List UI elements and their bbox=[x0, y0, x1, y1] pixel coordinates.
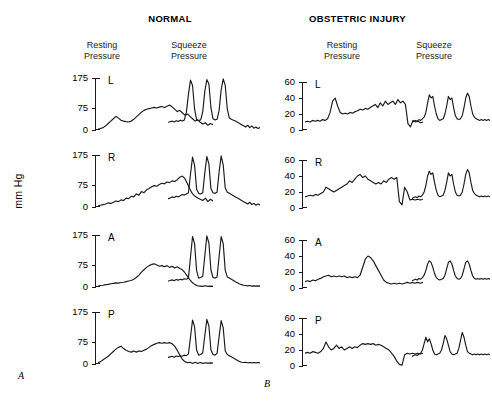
column-header-obstetric-resting: Resting Pressure bbox=[308, 40, 376, 62]
axis-tick-label: 175 bbox=[72, 230, 88, 240]
panel-letter-a: A bbox=[18, 370, 24, 381]
trace-normal-A-squeeze bbox=[168, 235, 260, 287]
axis-tick bbox=[92, 185, 97, 186]
axis-tick-label: 20 bbox=[284, 267, 295, 277]
column-header-normal-resting: Resting Pressure bbox=[68, 40, 136, 62]
axis-tick bbox=[299, 350, 304, 351]
axis-tick-label: 60 bbox=[284, 235, 295, 245]
axis-spine bbox=[302, 240, 303, 288]
axis-tick bbox=[92, 364, 97, 365]
axis-tick-label: 60 bbox=[284, 313, 295, 323]
axis-tick bbox=[299, 240, 304, 241]
axis-tick-label: 60 bbox=[284, 77, 295, 87]
axis-tick bbox=[92, 155, 97, 156]
trace-obstetric-P-squeeze bbox=[412, 318, 490, 366]
axis-tick-label: 40 bbox=[284, 251, 295, 261]
trace-normal-L-squeeze bbox=[168, 78, 260, 130]
axis-tick bbox=[92, 78, 97, 79]
axis-tick bbox=[299, 288, 304, 289]
column-header-obstetric-squeeze: Squeeze Pressure bbox=[400, 40, 468, 62]
axis-spine bbox=[95, 312, 96, 364]
axis-tick bbox=[92, 312, 97, 313]
trace-obstetric-A-squeeze bbox=[412, 240, 490, 288]
axis-tick-label: 0 bbox=[83, 359, 88, 369]
axis-tick-label: 175 bbox=[72, 73, 88, 83]
axis-tick-label: 40 bbox=[284, 93, 295, 103]
axis-tick-label: 0 bbox=[290, 125, 295, 135]
axis-tick-label: 0 bbox=[290, 361, 295, 371]
panel-title-normal: NORMAL bbox=[115, 13, 225, 24]
axis-tick-label: 20 bbox=[284, 109, 295, 119]
axis-tick-label: 20 bbox=[284, 345, 295, 355]
trace-obstetric-R-resting bbox=[305, 160, 423, 208]
axis-tick bbox=[92, 108, 97, 109]
panel-letter-b: B bbox=[264, 378, 270, 389]
axis-tick-label: 175 bbox=[72, 150, 88, 160]
y-axis-label: mm Hg bbox=[12, 161, 24, 221]
trace-obstetric-L-squeeze bbox=[412, 82, 490, 130]
axis-tick bbox=[299, 82, 304, 83]
axis-tick bbox=[92, 342, 97, 343]
axis-tick-label: 0 bbox=[290, 203, 295, 213]
axis-tick bbox=[299, 272, 304, 273]
axis-tick bbox=[92, 130, 97, 131]
axis-tick bbox=[92, 207, 97, 208]
axis-tick-label: 175 bbox=[72, 307, 88, 317]
axis-tick bbox=[299, 318, 304, 319]
axis-tick bbox=[299, 114, 304, 115]
axis-tick-label: 0 bbox=[83, 125, 88, 135]
axis-tick-label: 75 bbox=[77, 337, 88, 347]
axis-tick bbox=[92, 287, 97, 288]
column-header-line1: Resting bbox=[308, 40, 376, 51]
figure-root: NORMAL OBSTETRIC INJURY Resting Pressure… bbox=[0, 0, 492, 405]
axis-tick bbox=[299, 130, 304, 131]
trace-obstetric-L-resting bbox=[305, 82, 423, 130]
axis-tick-label: 75 bbox=[77, 180, 88, 190]
column-header-line1: Squeeze bbox=[400, 40, 468, 51]
axis-tick bbox=[299, 98, 304, 99]
axis-tick bbox=[299, 176, 304, 177]
axis-tick-label: 40 bbox=[284, 171, 295, 181]
axis-spine bbox=[302, 82, 303, 130]
trace-normal-R-squeeze bbox=[168, 155, 260, 207]
axis-tick-label: 75 bbox=[77, 260, 88, 270]
axis-tick-label: 0 bbox=[83, 202, 88, 212]
column-header-line1: Resting bbox=[68, 40, 136, 51]
column-header-line1: Squeeze bbox=[155, 40, 223, 51]
axis-tick-label: 60 bbox=[284, 155, 295, 165]
axis-tick bbox=[299, 366, 304, 367]
column-header-line2: Pressure bbox=[155, 51, 223, 62]
axis-tick-label: 75 bbox=[77, 103, 88, 113]
axis-tick bbox=[92, 265, 97, 266]
axis-tick bbox=[299, 192, 304, 193]
column-header-line2: Pressure bbox=[308, 51, 376, 62]
axis-tick bbox=[299, 334, 304, 335]
axis-tick-label: 20 bbox=[284, 187, 295, 197]
column-header-line2: Pressure bbox=[68, 51, 136, 62]
trace-obstetric-A-resting bbox=[305, 240, 423, 288]
axis-tick bbox=[299, 160, 304, 161]
axis-spine bbox=[302, 160, 303, 208]
axis-tick bbox=[299, 256, 304, 257]
axis-tick-label: 40 bbox=[284, 329, 295, 339]
column-header-normal-squeeze: Squeeze Pressure bbox=[155, 40, 223, 62]
axis-spine bbox=[95, 78, 96, 130]
trace-normal-P-squeeze bbox=[168, 312, 260, 364]
trace-obstetric-R-squeeze bbox=[412, 160, 490, 208]
axis-tick bbox=[92, 235, 97, 236]
axis-spine bbox=[95, 235, 96, 287]
panel-title-obstetric: OBSTETRIC INJURY bbox=[285, 13, 430, 24]
axis-tick-label: 0 bbox=[83, 282, 88, 292]
column-header-line2: Pressure bbox=[400, 51, 468, 62]
axis-tick-label: 0 bbox=[290, 283, 295, 293]
axis-tick bbox=[299, 208, 304, 209]
trace-obstetric-P-resting bbox=[305, 318, 423, 366]
axis-spine bbox=[302, 318, 303, 366]
axis-spine bbox=[95, 155, 96, 207]
